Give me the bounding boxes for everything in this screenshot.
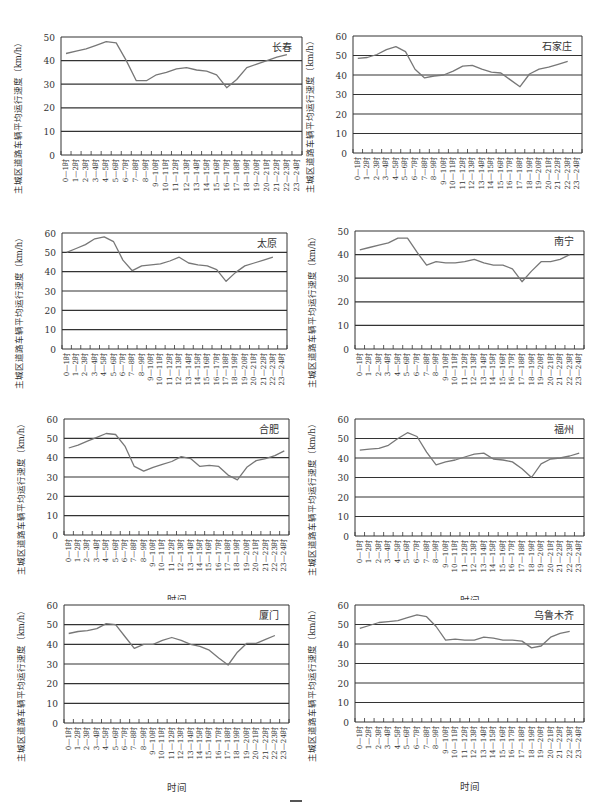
x-tick-label: 17—18时 [223, 727, 232, 759]
x-tick-label: 7—8时 [422, 540, 431, 563]
x-tick-label: 16—17时 [212, 353, 221, 385]
y-tick-label: 50 [47, 620, 59, 630]
y-tick-label: 0 [52, 719, 58, 729]
line-chart: 01020304050600—1时1—2时2—3时3—4时4—5时5—6时6—7… [305, 598, 610, 798]
x-tick-label: 12—13时 [467, 157, 476, 189]
x-tick-label: 23—24时 [277, 353, 286, 385]
x-tick-label: 17—18时 [517, 726, 526, 758]
line-chart: 01020304050600—1时1—2时2—3时3—4时4—5时5—6时6—7… [305, 0, 610, 200]
x-tick-label: 5—6时 [402, 353, 411, 376]
x-tick-label: 12—13时 [469, 726, 478, 758]
x-tick-label: 9—10时 [148, 539, 157, 567]
line-chart: 01020304050600—1时1—2时2—3时3—4时4—5时5—6时6—7… [0, 400, 305, 600]
x-tick-label: 15—16时 [204, 727, 213, 759]
x-tick-label: 9—10时 [441, 540, 450, 568]
y-tick-label: 20 [45, 306, 57, 316]
x-tick-label: 0—1时 [353, 157, 362, 180]
x-tick-label: 22—23时 [563, 157, 572, 189]
chart-panel-6: 01020304050600—1时1—2时2—3时3—4时4—5时5—6时6—7… [0, 598, 305, 794]
x-tick-label: 7—8时 [129, 539, 138, 562]
x-tick-label: 8—9时 [139, 727, 148, 750]
data-series-line [360, 433, 579, 478]
x-tick-label: 5—6时 [111, 539, 120, 562]
x-tick-label: 18—19时 [242, 159, 251, 191]
x-tick-label: 5—6时 [402, 726, 411, 749]
y-tick-label: 30 [44, 80, 56, 90]
x-tick-label: 12—13时 [469, 540, 478, 572]
y-tick-label: 40 [338, 640, 350, 650]
x-tick-label: 14—15时 [193, 353, 202, 385]
x-tick-label: 21—22时 [261, 727, 270, 759]
x-tick-label: 11—12时 [171, 159, 180, 191]
x-tick-label: 20—21时 [546, 540, 555, 572]
x-tick-label: 16—17时 [507, 726, 516, 758]
y-tick-label: 30 [45, 287, 57, 297]
x-tick-label: 21—22时 [555, 726, 564, 758]
x-tick-label: 22—23时 [268, 353, 277, 385]
y-axis-label: 主城区道路车辆平均运行速度（km/h） [16, 606, 26, 763]
x-tick-label: 2—3时 [374, 726, 383, 749]
chart-panel-4: 01020304050600—1时1—2时2—3时3—4时4—5时5—6时6—7… [0, 400, 305, 596]
x-tick-label: 17—18时 [221, 353, 230, 385]
x-tick-label: 2—3时 [80, 353, 89, 376]
y-tick-label: 20 [336, 110, 348, 120]
x-tick-label: 20—21时 [251, 727, 260, 759]
line-chart: 010203040500—1时1—2时2—3时3—4时4—5时5—6时6—7时7… [305, 200, 610, 400]
x-tick-label: 16—17时 [507, 540, 516, 572]
data-series-line [69, 434, 285, 480]
x-tick-label: 3—4时 [92, 727, 101, 750]
x-tick-label: 13—14时 [479, 540, 488, 572]
x-tick-label: 13—14时 [477, 157, 486, 189]
x-tick-label: 4—5时 [99, 353, 108, 376]
x-tick-label: 3—4时 [381, 157, 390, 180]
x-tick-label: 14—15时 [195, 727, 204, 759]
y-tick-label: 0 [341, 149, 347, 159]
x-tick-label: 8—9时 [431, 353, 440, 376]
x-tick-label: 19—20时 [534, 157, 543, 189]
y-axis-label: 主城区道路车辆平均运行速度（km/h） [307, 605, 317, 762]
x-tick-label: 19—20时 [536, 726, 545, 758]
x-tick-label: 7—8时 [420, 157, 429, 180]
x-axis-label: 时间 [167, 782, 187, 793]
y-tick-label: 30 [47, 473, 59, 483]
x-tick-label: 3—4时 [92, 539, 101, 562]
y-tick-label: 0 [50, 345, 56, 355]
y-tick-label: 40 [47, 640, 59, 650]
y-tick-label: 20 [47, 492, 59, 502]
x-tick-label: 18—19时 [527, 540, 536, 572]
y-tick-label: 60 [47, 415, 59, 425]
x-tick-label: 22—23时 [282, 159, 291, 191]
x-tick-label: 17—18时 [232, 159, 241, 191]
x-tick-label: 13—14时 [184, 353, 193, 385]
y-tick-label: 0 [343, 718, 349, 728]
y-tick-label: 10 [338, 321, 350, 331]
y-tick-label: 20 [338, 297, 350, 307]
x-tick-label: 1—2时 [73, 539, 82, 562]
data-series-line [66, 42, 287, 88]
x-tick-label: 11—12时 [458, 157, 467, 189]
y-tick-label: 40 [338, 250, 350, 260]
x-tick-label: 19—20时 [536, 353, 545, 385]
x-tick-label: 23—24时 [574, 353, 583, 385]
x-tick-label: 22—23时 [565, 540, 574, 572]
x-tick-label: 8—9时 [141, 159, 150, 182]
x-tick-label: 6—7时 [412, 726, 421, 749]
x-tick-label: 15—16时 [498, 726, 507, 758]
x-tick-label: 18—19时 [527, 726, 536, 758]
x-tick-label: 12—13时 [182, 159, 191, 191]
x-tick-label: 16—17时 [222, 159, 231, 191]
chart-title: 南宁 [554, 235, 574, 247]
x-tick-label: 14—15时 [488, 353, 497, 385]
x-tick-label: 22—23时 [565, 726, 574, 758]
x-tick-label: 13—14时 [479, 353, 488, 385]
x-tick-label: 20—21时 [546, 353, 555, 385]
x-tick-label: 10—11时 [450, 726, 459, 758]
x-tick-label: 3—4时 [383, 540, 392, 563]
y-axis-label: 主城区道路车辆平均运行速度（km/h） [16, 419, 26, 576]
x-tick-label: 23—24时 [279, 727, 288, 759]
x-tick-label: 11—12时 [460, 726, 469, 758]
x-tick-label: 5—6时 [109, 353, 118, 376]
y-tick-label: 10 [47, 699, 59, 709]
x-tick-label: 10—11时 [155, 353, 164, 385]
chart-panel-1: 01020304050600—1时1—2时2—3时3—4时4—5时5—6时6—7… [305, 0, 610, 196]
